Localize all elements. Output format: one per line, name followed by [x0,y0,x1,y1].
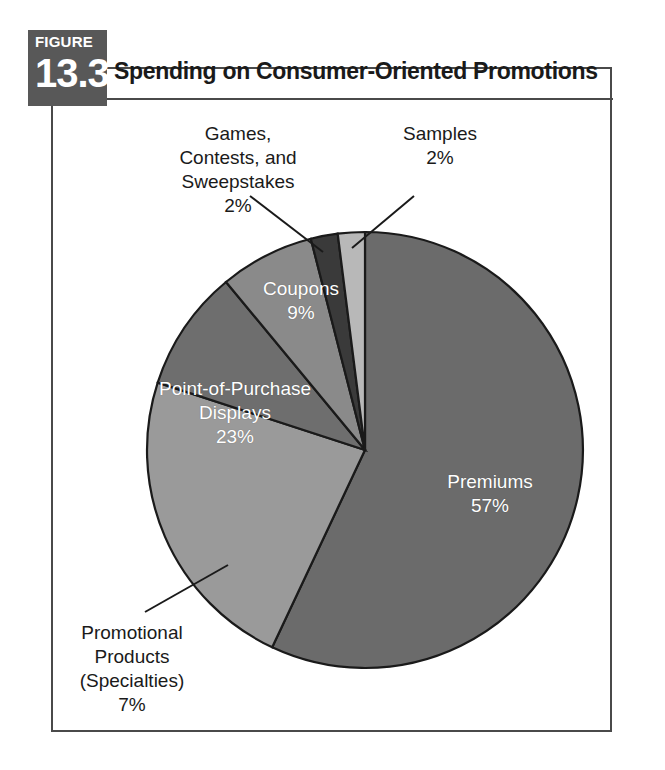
label-pop-line2: Displays [120,401,350,425]
label-promotional-products: Promotional Products (Specialties) 7% [32,621,232,717]
label-promotional-line1: Promotional [32,621,232,645]
label-games-contests-sweepstakes: Games, Contests, and Sweepstakes 2% [148,122,328,218]
label-samples-value: 2% [380,146,500,170]
figure-badge-word: FIGURE [35,34,107,50]
label-coupons-value: 9% [236,301,366,325]
label-samples-line1: Samples [380,122,500,146]
label-premiums-line1: Premiums [400,470,580,494]
label-games-value: 2% [148,194,328,218]
label-coupons-line1: Coupons [236,277,366,301]
label-premiums: Premiums 57% [400,470,580,518]
label-games-line2: Contests, and [148,146,328,170]
figure-badge-number: 13.3 [35,52,107,94]
label-promotional-line2: Products [32,645,232,669]
page-title: Spending on Consumer-Oriented Promotions [114,58,598,85]
label-promotional-line3: (Specialties) [32,669,232,693]
label-games-line3: Sweepstakes [148,170,328,194]
label-coupons: Coupons 9% [236,277,366,325]
figure-number-badge: FIGURE 13.3 [28,30,107,106]
label-games-line1: Games, [148,122,328,146]
label-pop-line1: Point-of-Purchase [120,377,350,401]
label-pop-value: 23% [120,425,350,449]
label-premiums-value: 57% [400,494,580,518]
label-promotional-value: 7% [32,693,232,717]
title-underline-rule [105,98,613,100]
label-point-of-purchase-displays: Point-of-Purchase Displays 23% [120,377,350,449]
label-samples: Samples 2% [380,122,500,170]
